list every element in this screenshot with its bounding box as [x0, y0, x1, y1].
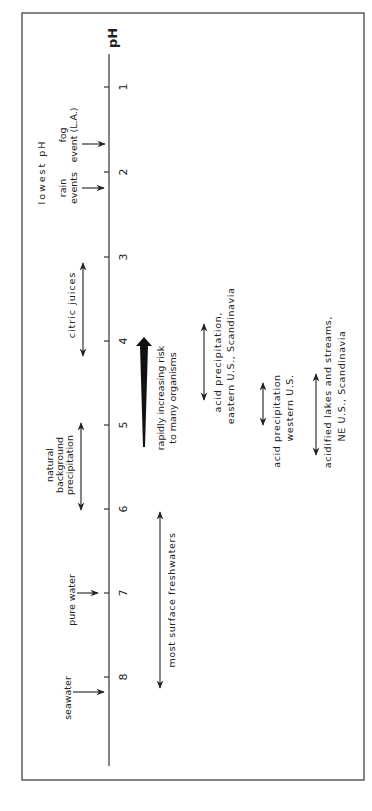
fog-label-line2: event (L.A.)	[68, 107, 79, 162]
tick-label-8: 8	[117, 674, 130, 681]
ph-scale-diagram: pH 1 2 3 4 5 6 7 8 lowest pH rain events…	[0, 0, 372, 811]
tick-label-2: 2	[117, 169, 130, 176]
risk-label-line2: to many organisms	[167, 352, 178, 444]
rain-label-line2: events	[68, 172, 79, 204]
risk-wedge-arrow-icon	[136, 337, 152, 447]
pure-water-marker: pure water	[66, 574, 98, 626]
seawater-marker: seawater	[62, 676, 104, 720]
lowest-ph-group: lowest pH rain events fog event (L.A.)	[36, 107, 105, 204]
lakes-label-line1: acidified lakes and streams,	[322, 316, 333, 468]
tick-label-5: 5	[117, 422, 130, 429]
acid-precip-eastern-range: acid precipitation, eastern U.S., Scandi…	[204, 288, 236, 425]
seawater-label: seawater	[62, 676, 73, 720]
pure-water-label: pure water	[66, 574, 77, 626]
risk-label-line1: rapidly increasing risk	[155, 345, 166, 450]
rain-label-line1: rain	[57, 179, 68, 197]
western-label-line2: western U.S.	[284, 374, 295, 441]
tick-label-1: 1	[117, 84, 130, 91]
tick-label-3: 3	[117, 254, 130, 261]
tick-label-6: 6	[117, 506, 130, 513]
tick-label-4: 4	[117, 338, 130, 345]
lakes-label-line2: NE U.S., Scandinavia	[336, 331, 347, 442]
natural-precipitation-range: natural background precipitation	[44, 423, 81, 510]
risk-wedge: rapidly increasing risk to many organism…	[136, 337, 178, 450]
citric-juices-range: citric juices	[66, 263, 83, 356]
lowest-ph-label: lowest pH	[36, 140, 47, 205]
fog-label-line1: fog	[57, 127, 68, 142]
citric-label: citric juices	[66, 272, 77, 339]
eastern-label-line2: eastern U.S., Scandinavia	[225, 288, 236, 425]
western-label-line1: acid precipitation	[271, 374, 282, 467]
tick-label-7: 7	[117, 590, 130, 597]
acidified-lakes-range: acidified lakes and streams, NE U.S., Sc…	[316, 316, 347, 468]
natural-label-line3: precipitation	[64, 435, 75, 495]
freshwaters-label: most surface freshwaters	[166, 532, 177, 667]
freshwaters-range: most surface freshwaters	[160, 512, 177, 688]
eastern-label-line1: acid precipitation,	[212, 312, 223, 413]
axis-title: pH	[105, 28, 120, 48]
ph-axis: pH 1 2 3 4 5 6 7 8	[104, 28, 130, 766]
acid-precip-western-range: acid precipitation western U.S.	[263, 374, 295, 467]
